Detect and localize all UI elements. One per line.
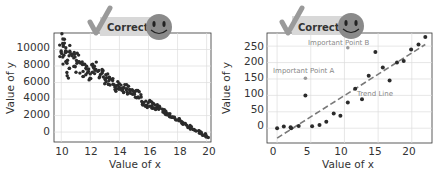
y-tick: 6000 <box>23 75 50 87</box>
x-tick: 14 <box>113 145 127 157</box>
x-tick: 10 <box>55 145 68 157</box>
y-tick: 250 <box>244 40 264 52</box>
left-y-ticks: 0 2000 4000 6000 8000 10000 <box>17 41 50 137</box>
y-tick: 0 <box>257 119 264 131</box>
x-tick: 12 <box>84 145 97 157</box>
y-tick: 150 <box>244 71 264 83</box>
x-tick: 18 <box>173 145 186 157</box>
left-correct-badge: Correct <box>90 8 172 40</box>
right-correct-badge: Correct <box>282 8 364 39</box>
y-tick: 8000 <box>23 58 50 70</box>
right-y-ticks: 0 50 100 150 200 250 <box>244 40 264 131</box>
left-x-axis-label: Value of x <box>109 158 161 170</box>
y-tick: 4000 <box>23 91 50 103</box>
x-tick: 10 <box>334 145 347 157</box>
left-scatter-chart: 0 2000 4000 6000 8000 10000 10 12 14 16 … <box>0 0 220 173</box>
y-tick: 200 <box>244 55 264 67</box>
y-tick: 0 <box>43 125 50 137</box>
annotation-important-point-a: Important Point A <box>273 67 335 75</box>
right-scatter-chart: 0 50 100 150 200 250 0 5 10 15 20 Value … <box>220 0 437 173</box>
x-tick: 15 <box>368 145 381 157</box>
y-tick: 2000 <box>23 108 50 120</box>
y-tick: 50 <box>251 103 264 115</box>
right-chart-panel: 0 50 100 150 200 250 0 5 10 15 20 Value … <box>220 0 437 173</box>
x-tick: 20 <box>202 145 215 157</box>
badge-label: Correct <box>107 22 149 33</box>
x-tick: 16 <box>143 145 157 157</box>
right-y-axis-label: Value of y <box>220 62 232 114</box>
annotation-important-point-b: Important Point B <box>308 39 370 47</box>
y-tick: 100 <box>244 87 264 99</box>
smiley-icon <box>338 13 364 39</box>
x-tick: 5 <box>304 145 311 157</box>
annotation-trend-line: Trend Line <box>356 90 393 98</box>
left-chart-panel: 0 2000 4000 6000 8000 10000 10 12 14 16 … <box>0 0 220 173</box>
x-tick: 0 <box>270 145 277 157</box>
smiley-icon <box>146 14 172 40</box>
right-x-axis-label: Value of x <box>322 158 374 170</box>
right-x-ticks: 0 5 10 15 20 <box>270 145 416 157</box>
y-tick: 10000 <box>17 41 50 53</box>
left-x-ticks: 10 12 14 16 18 20 <box>55 145 215 157</box>
left-y-axis-label: Value of y <box>4 62 16 114</box>
x-tick: 20 <box>402 145 415 157</box>
badge-label: Correct <box>298 22 340 33</box>
